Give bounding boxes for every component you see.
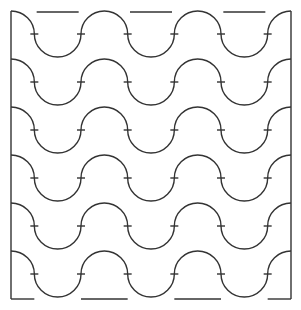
tick-marks (30, 34, 271, 274)
wave-row-1 (11, 11, 291, 57)
wave-row-3 (11, 107, 291, 153)
wave-pattern-diagram (0, 0, 301, 310)
wave-row-5 (11, 203, 291, 249)
frame (11, 11, 291, 299)
wave-row-2 (11, 59, 291, 105)
wave-row-6 (11, 251, 291, 297)
wave-row-4 (11, 155, 291, 201)
wave-rows (11, 11, 291, 297)
